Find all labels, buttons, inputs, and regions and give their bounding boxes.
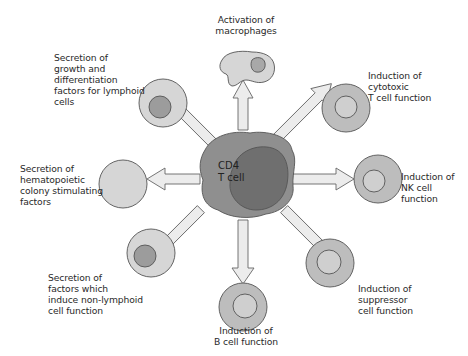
label-hematopoietic: Secretion of hematopoietic colony stimul…: [20, 163, 103, 207]
label-macrophages: Activation of macrophages: [206, 14, 286, 36]
nk-cell-nucleus: [363, 170, 385, 192]
label-nk: Induction of NK cell function: [401, 171, 454, 204]
cd4-t-cell: [200, 132, 295, 217]
macrophage-cell: [220, 51, 275, 86]
arrow-to-b-cell: [232, 220, 254, 284]
cd4-t-cell-function-diagram: .arrow { fill: #ececec; stroke: #666; st…: [0, 0, 468, 356]
cytotoxic-t-cell: [322, 84, 370, 132]
suppressor-cell-nucleus: [317, 250, 341, 274]
lymphoid-growth-nucleus: [149, 96, 171, 118]
non-lymphoid-nucleus: [134, 245, 156, 267]
label-non-lymphoid: Secretion of factors which induce non-ly…: [48, 272, 143, 316]
lymphoid-growth-cell: [139, 79, 187, 127]
macrophage-nucleus: [251, 58, 265, 73]
non-lymphoid-cell: [127, 229, 175, 277]
label-b-cell: Induction of B cell function: [203, 325, 289, 347]
label-suppressor: Induction of suppressor cell function: [358, 283, 413, 316]
hematopoietic-cell: [99, 160, 147, 208]
label-cytotoxic-t: Induction of cytotoxic T cell function: [368, 70, 431, 103]
center-cell-label: CD4 T cell: [218, 160, 245, 184]
label-lymphoid-growth: Secretion of growth and differentiation …: [54, 52, 145, 107]
arrow-to-hematopoietic: [147, 168, 200, 190]
b-cell-nucleus: [233, 294, 257, 318]
suppressor-cell: [306, 239, 354, 287]
cytotoxic-t-nucleus: [335, 96, 357, 118]
nk-cell: [354, 155, 402, 203]
b-cell: [219, 283, 267, 331]
arrow-to-macrophages: [233, 80, 253, 130]
arrow-to-nk: [290, 168, 354, 190]
